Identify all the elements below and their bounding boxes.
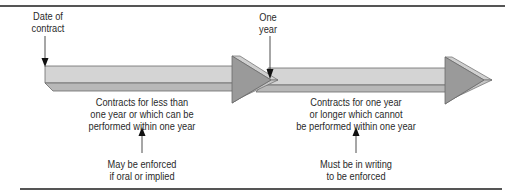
bar-less-than-one-year	[45, 66, 236, 91]
arrowhead-end-icon	[445, 57, 492, 104]
description-line: Contracts for one year	[294, 96, 417, 108]
rule-line: if oral or implied	[98, 170, 186, 182]
marker-label-one-year: One year	[250, 11, 285, 35]
rule-line: Must be in writing	[312, 158, 400, 170]
rule-line: May be enforced	[98, 158, 186, 170]
description-line: be performed within one year	[294, 120, 417, 132]
marker-line: year	[250, 23, 285, 35]
description-line: one year or which can be	[80, 108, 203, 120]
description-line: or longer which cannot	[294, 108, 417, 120]
rule-must-be-in-writing: Must be in writing to be enforced	[312, 158, 400, 182]
marker-line: One	[250, 11, 285, 23]
bar-one-year-or-longer	[256, 68, 450, 92]
description-line: performed within one year	[80, 120, 203, 132]
description-less-than-one-year: Contracts for less than one year or whic…	[80, 96, 203, 132]
arrow-down-date-of-contract-icon	[42, 36, 49, 67]
marker-line: contract	[22, 22, 75, 34]
marker-label-date-of-contract: Date of contract	[22, 10, 75, 34]
rule-oral-or-implied: May be enforced if oral or implied	[98, 158, 186, 182]
description-one-year-or-longer: Contracts for one year or longer which c…	[294, 96, 417, 132]
rule-line: to be enforced	[312, 170, 400, 182]
description-line: Contracts for less than	[80, 96, 203, 108]
arrowhead-one-year-icon	[232, 56, 278, 103]
marker-line: Date of	[22, 10, 75, 22]
